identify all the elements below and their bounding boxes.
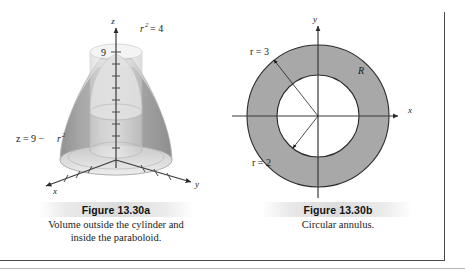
svg-text:= 4: = 4 — [150, 23, 163, 34]
svg-text:r: r — [57, 133, 61, 144]
figure-13-30a-artwork: z x y 9 r 2 = 4 z = 9 − r 2 — [0, 0, 232, 198]
page-border-bottom — [0, 260, 445, 261]
cylinder-equation-label: r 2 = 4 — [140, 21, 163, 34]
svg-text:2: 2 — [145, 21, 149, 28]
svg-text:z = 9 −: z = 9 − — [16, 133, 45, 144]
figure-13-30b-caption-line1: Circular annulus. — [232, 219, 444, 232]
y-axis-label: y — [194, 179, 199, 189]
inner-radius-label: r = 2 — [252, 157, 271, 168]
page-border-right — [444, 12, 445, 261]
figure-13-30a-caption-line1: Volume outside the cylinder and — [0, 219, 232, 232]
svg-text:r: r — [140, 23, 144, 34]
y-axis-label: y — [312, 14, 317, 24]
figure-13-30a-caption-line2: inside the paraboloid. — [0, 232, 232, 245]
z-intercept-label: 9 — [101, 47, 106, 58]
region-label: R — [357, 65, 364, 76]
x-axis-label: x — [52, 186, 57, 196]
paraboloid-equation-label: z = 9 − r 2 — [16, 131, 66, 144]
figure-13-30a-panel: z x y 9 r 2 = 4 z = 9 − r 2 — [0, 0, 232, 276]
figure-page: z x y 9 r 2 = 4 z = 9 − r 2 — [0, 0, 465, 276]
figure-13-30b-panel: r = 3 r = 2 R x y Figure 13.30b Circular… — [232, 0, 444, 276]
figure-13-30a-caption-title: Figure 13.30a — [0, 204, 232, 216]
outer-radius-label: r = 3 — [250, 46, 269, 57]
figure-13-30b-artwork: r = 3 r = 2 R x y — [232, 0, 444, 198]
figure-13-30b-caption-title: Figure 13.30b — [232, 204, 444, 216]
z-axis-label: z — [110, 16, 115, 26]
page-border-bottom-secondary — [0, 268, 465, 269]
x-axis-label: x — [407, 105, 412, 115]
